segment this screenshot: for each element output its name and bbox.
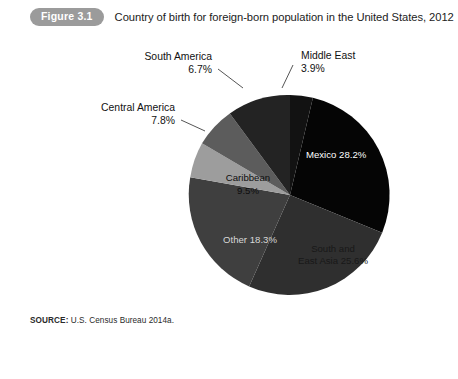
leader-line-south-america bbox=[218, 69, 243, 88]
label-caribbean-line2: 9.5% bbox=[237, 185, 259, 196]
source-text: U.S. Census Bureau 2014a. bbox=[68, 316, 174, 325]
label-south-america-value: 6.7% bbox=[188, 64, 212, 75]
leader-line-central-america bbox=[181, 120, 205, 131]
label-central-america-name: Central America bbox=[101, 102, 175, 113]
label-mexico: Mexico 28.2% bbox=[306, 149, 367, 160]
label-middle-east-name: Middle East bbox=[301, 50, 355, 61]
label-middle-east-value: 3.9% bbox=[301, 63, 325, 74]
figure-caption: Country of birth for foreign-born popula… bbox=[115, 11, 454, 23]
label-south-america-name: South America bbox=[144, 51, 212, 62]
label-south-east-asia-line2: East Asia 25.6% bbox=[298, 255, 368, 266]
pie-chart-area: Middle East 3.9% South America 6.7% Cent… bbox=[0, 34, 458, 309]
label-other: Other 18.3% bbox=[223, 234, 277, 245]
figure-number-badge: Figure 3.1 bbox=[30, 8, 104, 26]
figure-header: Figure 3.1 Country of birth for foreign-… bbox=[0, 0, 458, 34]
label-central-america-value: 7.8% bbox=[151, 115, 175, 126]
source-note: SOURCE: U.S. Census Bureau 2014a. bbox=[30, 316, 174, 325]
label-south-east-asia-line1: South and bbox=[311, 243, 355, 254]
pie-chart-svg: Middle East 3.9% South America 6.7% Cent… bbox=[0, 34, 458, 309]
label-caribbean-line1: Caribbean bbox=[226, 172, 270, 183]
source-label: SOURCE: bbox=[30, 316, 68, 325]
leader-line-middle-east bbox=[282, 65, 293, 88]
